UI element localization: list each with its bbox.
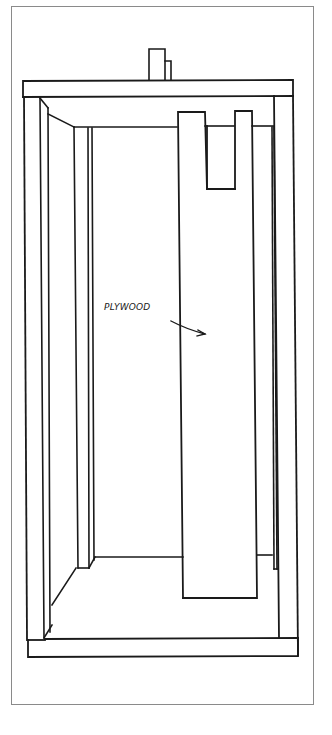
plywood-leader-arrow (171, 321, 205, 336)
left-outer-post (24, 97, 27, 640)
top-rail (23, 80, 293, 97)
right-outer-post (274, 96, 298, 655)
figure-border (12, 7, 314, 705)
cabinet-illustration (0, 0, 332, 735)
left-side-panel (40, 98, 76, 638)
top-post (149, 49, 171, 80)
bottom-rail (28, 638, 298, 657)
back-left-upright (74, 127, 95, 568)
cabinet-drawing: PLYWOOD (0, 0, 332, 735)
plywood-panel (178, 111, 257, 598)
plywood-label: PLYWOOD (104, 302, 150, 312)
